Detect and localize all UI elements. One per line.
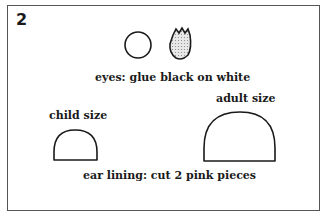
pattern-shapes: [0, 0, 324, 215]
ear-lining-label: ear lining: cut 2 pink pieces: [83, 169, 256, 182]
adult-size-label: adult size: [216, 92, 276, 105]
ear-lining-child: [54, 130, 97, 160]
child-size-label: child size: [49, 109, 107, 122]
eyes-label: eyes: glue black on white: [95, 71, 250, 84]
ear-lining-adult: [204, 112, 275, 161]
eye-black-shape: [170, 28, 191, 59]
eye-white-shape: [125, 32, 151, 58]
